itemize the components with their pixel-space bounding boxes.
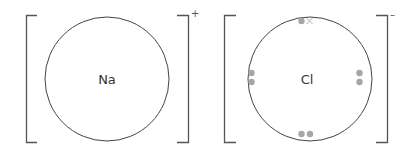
electron-dot [248,79,254,85]
electron-cross-icon [307,18,313,24]
electron-dot [298,131,304,137]
na-symbol: Na [98,72,116,87]
sodium-ion: Na + [27,8,200,143]
cl-left-bracket [225,16,237,143]
chloride-ion: Cl – [225,9,396,143]
electron-dot [356,79,362,85]
electron-dot [307,131,313,137]
electron-dot [248,70,254,76]
cl-symbol: Cl [301,72,314,87]
cl-electrons-right [356,70,362,85]
electron-dot [356,70,362,76]
ionic-bond-diagram: Na + Cl – [0,0,414,156]
na-charge: + [191,8,199,19]
cl-charge: – [390,9,395,20]
na-left-bracket [27,16,38,143]
cl-right-bracket [376,16,388,143]
cl-electrons-top [298,18,312,24]
cl-electrons-bottom [298,131,313,137]
na-right-bracket [177,16,189,143]
electron-dot [298,18,304,24]
cl-electrons-left [248,70,254,85]
